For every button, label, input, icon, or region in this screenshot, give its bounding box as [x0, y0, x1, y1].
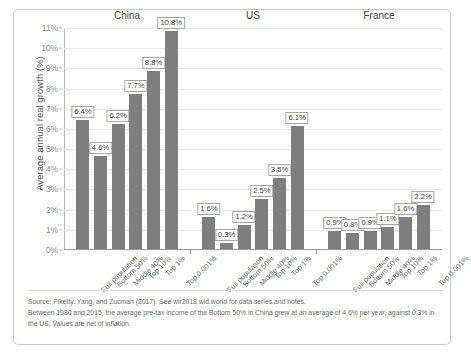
bar-value-label: 2.5%	[250, 185, 273, 197]
bar-value-label: 6.1%	[286, 112, 309, 124]
x-category-label: Top 0.001%	[437, 254, 471, 288]
bar[interactable]	[399, 217, 412, 249]
y-tick-label: 9%	[46, 63, 58, 73]
y-tick-label: 8%	[46, 84, 58, 94]
y-tick-mark	[59, 68, 62, 69]
figure-frame: Average annual real growth (%) 0%1%2%3%4…	[13, 9, 451, 345]
y-tick-mark	[59, 209, 62, 210]
gridline	[64, 89, 442, 90]
bar[interactable]	[220, 243, 233, 249]
bar-value-label: 2.2%	[412, 191, 435, 203]
group-separator	[316, 250, 317, 254]
y-tick-label: 10%	[41, 43, 58, 53]
bar[interactable]	[238, 225, 251, 249]
bar[interactable]	[147, 71, 160, 249]
gridline	[64, 68, 442, 69]
y-tick-label: 3%	[46, 184, 58, 194]
footnote-divider	[28, 290, 443, 291]
y-axis-ticks: 0%1%2%3%4%5%6%7%8%9%10%11%	[36, 28, 62, 250]
y-tick-label: 0%	[46, 245, 58, 255]
y-tick-label: 5%	[46, 144, 58, 154]
plot-area: 6.4%4.6%6.2%7.7%8.8%10.8%1.6%0.3%1.2%2.5…	[64, 28, 442, 250]
gridline	[64, 28, 442, 29]
y-tick-mark	[59, 48, 62, 49]
y-tick-mark	[59, 128, 62, 129]
bar-value-label: 1.6%	[394, 203, 417, 215]
gridline	[64, 48, 442, 49]
y-tick-label: 6%	[46, 124, 58, 134]
y-tick-mark	[59, 250, 62, 251]
bar[interactable]	[273, 178, 286, 249]
y-tick-label: 4%	[46, 164, 58, 174]
bar[interactable]	[381, 227, 394, 249]
y-tick-mark	[59, 149, 62, 150]
bar-value-label: 6.2%	[107, 110, 130, 122]
y-tick-mark	[59, 108, 62, 109]
bar-value-label: 7.7%	[124, 80, 147, 92]
group-title-france: France	[363, 10, 394, 21]
y-tick-mark	[59, 229, 62, 230]
bar-value-label: 3.5%	[268, 164, 291, 176]
bar[interactable]	[346, 233, 359, 249]
y-tick-label: 1%	[46, 225, 58, 235]
bar[interactable]	[417, 205, 430, 249]
x-axis-line	[64, 249, 442, 250]
y-tick-label: 11%	[42, 23, 58, 33]
bar-value-label: 1.6%	[197, 203, 220, 215]
y-tick-label: 2%	[46, 205, 58, 215]
footnote-source: Source: Piketty, Yang, and Zucman (2017)…	[28, 296, 443, 307]
bar[interactable]	[94, 156, 107, 249]
bar[interactable]	[112, 124, 125, 249]
bar-value-label: 1.2%	[233, 211, 256, 223]
bar[interactable]	[202, 217, 215, 249]
group-separator	[190, 250, 191, 254]
footnote-block: Source: Piketty, Yang, and Zucman (2017)…	[28, 296, 443, 329]
group-title-us: US	[246, 10, 260, 21]
bar-value-label: 0.3%	[215, 229, 238, 241]
group-title-china: China	[114, 10, 140, 21]
bar[interactable]	[165, 31, 178, 249]
y-tick-mark	[59, 189, 62, 190]
y-axis-line	[64, 28, 65, 250]
y-tick-mark	[59, 28, 62, 29]
x-category-label: Top 0.001%	[311, 254, 345, 288]
bar[interactable]	[76, 120, 89, 249]
bar[interactable]	[291, 126, 304, 249]
bar-value-label: 10.8%	[157, 17, 185, 29]
y-tick-mark	[59, 169, 62, 170]
chart-region: Average annual real growth (%) 0%1%2%3%4…	[14, 10, 452, 282]
bar-value-label: 4.6%	[89, 142, 112, 154]
bar-value-label: 8.8%	[142, 57, 165, 69]
y-tick-mark	[59, 88, 62, 89]
bar[interactable]	[364, 231, 377, 249]
bar[interactable]	[328, 231, 341, 249]
footnote-note: Between 1980 and 2015, the average pre-t…	[28, 307, 443, 329]
y-tick-label: 7%	[46, 104, 58, 114]
bar[interactable]	[255, 199, 268, 249]
bar-value-label: 6.4%	[71, 106, 94, 118]
x-category-label: Top 0.001%	[185, 254, 219, 288]
bar[interactable]	[129, 94, 142, 249]
